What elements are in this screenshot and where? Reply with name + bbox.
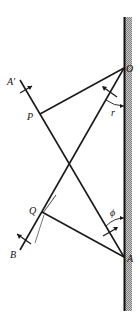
- angle-arc-r-arrowhead: [120, 104, 124, 108]
- label-o: O: [126, 63, 133, 74]
- mirror-wall: [125, 17, 133, 311]
- label-b: B: [10, 249, 16, 260]
- angle-arc-phi-arrowhead: [120, 216, 124, 220]
- label-q: Q: [29, 205, 37, 216]
- line-b-to-o: [20, 68, 124, 250]
- label-a: A: [126, 253, 134, 264]
- label-angle-phi: ϕ: [110, 207, 115, 218]
- tangent-at-q-lower: [35, 215, 44, 243]
- label-angle-r: r: [111, 107, 115, 118]
- wavefront-arrow-o: [102, 86, 117, 97]
- wavefront-arrow-a-prime: [20, 86, 32, 93]
- wall-hatching: [125, 17, 132, 311]
- line-a-prime-to-a: [20, 80, 124, 257]
- diagram-canvas: O A P Q A′ B r ϕ: [0, 0, 140, 325]
- label-p: P: [26, 111, 33, 122]
- label-a-prime: A′: [6, 76, 16, 87]
